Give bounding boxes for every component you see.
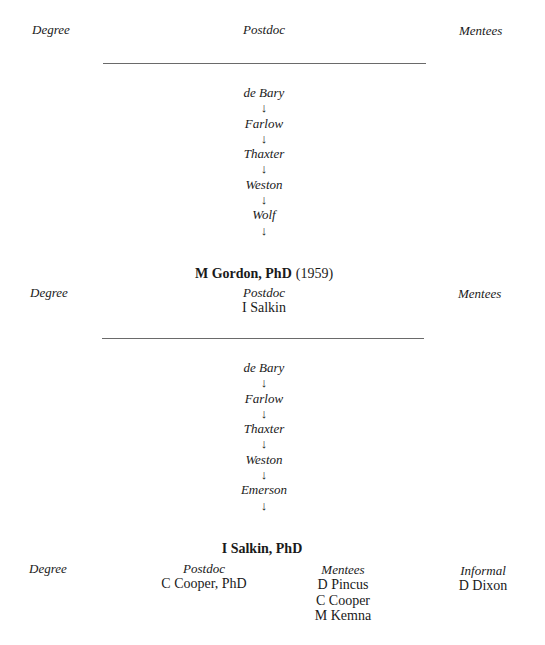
postdoc-label: Postdoc — [161, 561, 246, 576]
divider-line — [102, 338, 424, 339]
down-arrow-icon: ↓ — [244, 161, 285, 176]
lineage-name: Thaxter — [244, 146, 285, 161]
postdoc-label: Postdoc — [242, 285, 286, 300]
mentees-column: Mentees D Pincus C Cooper M Kemna — [315, 562, 371, 624]
divider-line — [103, 63, 426, 64]
lineage-name: Wolf — [244, 207, 285, 222]
down-arrow-icon: ↓ — [241, 467, 287, 482]
down-arrow-icon: ↓ — [244, 100, 285, 115]
degree-label: Degree — [30, 285, 68, 301]
down-arrow-icon: ↓ — [244, 192, 285, 207]
lineage-name: Emerson — [241, 482, 287, 497]
informal-name: D Dixon — [459, 578, 508, 594]
lineage-name: Farlow — [244, 116, 285, 131]
down-arrow-icon: ↓ — [244, 131, 285, 146]
lineage-name: Farlow — [241, 391, 287, 406]
mentee-name: C Cooper — [315, 593, 371, 609]
postdoc-label: Postdoc — [243, 22, 285, 38]
academic-lineage-chain: de Bary ↓ Farlow ↓ Thaxter ↓ Weston ↓ Wo… — [244, 85, 285, 238]
informal-column: Informal D Dixon — [459, 563, 508, 594]
academic-lineage-chain: de Bary ↓ Farlow ↓ Thaxter ↓ Weston ↓ Em… — [241, 360, 287, 513]
down-arrow-icon: ↓ — [241, 498, 287, 513]
mentees-label: Mentees — [459, 23, 502, 39]
down-arrow-icon: ↓ — [241, 375, 287, 390]
mentees-label: Mentees — [315, 562, 371, 577]
lineage-name: de Bary — [241, 360, 287, 375]
down-arrow-icon: ↓ — [241, 436, 287, 451]
person-heading: M Gordon, PhD (1959) — [195, 264, 333, 282]
lineage-name: Thaxter — [241, 421, 287, 436]
down-arrow-icon: ↓ — [241, 406, 287, 421]
mentee-name: D Pincus — [315, 577, 371, 593]
postdoc-name: C Cooper, PhD — [161, 576, 246, 592]
degree-label: Degree — [29, 561, 67, 577]
person-name: M Gordon, PhD — [195, 266, 292, 281]
person-year: (1959) — [296, 266, 333, 281]
down-arrow-icon: ↓ — [244, 223, 285, 238]
mentees-label: Mentees — [458, 286, 501, 302]
lineage-name: Weston — [244, 177, 285, 192]
person-name: I Salkin, PhD — [222, 541, 303, 556]
person-heading: I Salkin, PhD — [222, 539, 303, 557]
postdoc-column: Postdoc I Salkin — [242, 285, 286, 316]
lineage-name: Weston — [241, 452, 287, 467]
degree-label: Degree — [32, 22, 70, 38]
lineage-name: de Bary — [244, 85, 285, 100]
mentee-name: M Kemna — [315, 608, 371, 624]
postdoc-name: I Salkin — [242, 300, 286, 316]
informal-label: Informal — [459, 563, 508, 578]
postdoc-column: Postdoc C Cooper, PhD — [161, 561, 246, 592]
